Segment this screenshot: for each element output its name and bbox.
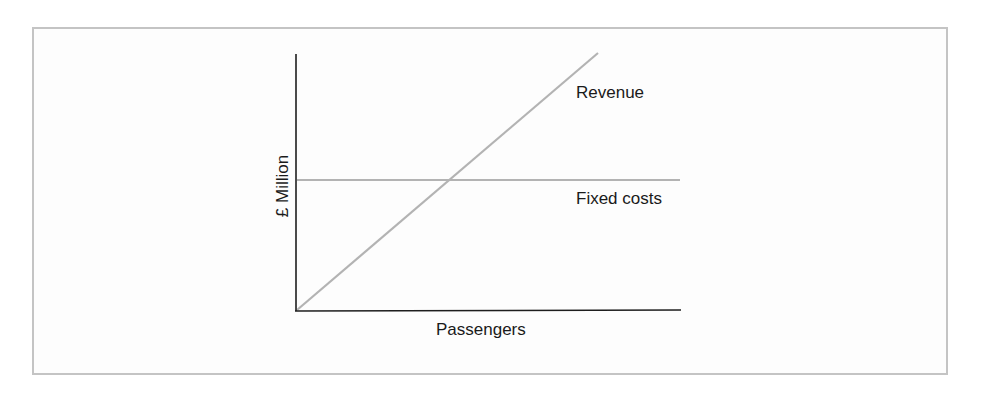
x-axis <box>295 310 681 311</box>
fixed-costs-label: Fixed costs <box>576 189 662 209</box>
y-axis-label: £ Million <box>273 155 293 217</box>
x-axis-label: Passengers <box>436 320 526 340</box>
revenue-line <box>297 53 598 310</box>
revenue-label: Revenue <box>576 83 644 103</box>
